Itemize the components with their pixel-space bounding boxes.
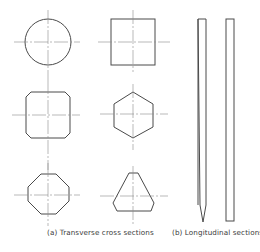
caption-transverse-sections: (a) Transverse cross sections [47,228,154,237]
cross-sections-diagram [0,0,260,252]
chamfered-square-section [12,80,80,170]
octagon-section [14,163,80,226]
square-section [98,10,170,72]
caption-longitudinal-sections: (b) Longitudinal sections [172,228,260,237]
circle-section [14,10,80,80]
hexagon-section [100,84,168,150]
rectangular-strip-section [226,19,234,221]
truncated-triangle-section [100,166,168,226]
pointed-strip-section [198,19,206,222]
